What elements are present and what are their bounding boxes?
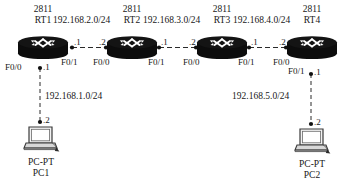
ip-label-rt4-f00: .2 (279, 38, 286, 47)
router-rt4[interactable] (286, 35, 338, 60)
ip-label-rt1-f00: .1 (43, 63, 50, 72)
iface-dot-rt1-f00 (38, 66, 42, 70)
host-pc1[interactable] (23, 125, 57, 155)
ip-label-rt2-f01: .1 (161, 38, 168, 47)
iface-label-rt4-f01: F0/1 (288, 67, 305, 76)
ip-label-rt4-f01: .1 (314, 68, 321, 77)
ip-label-rt1-f01: .1 (74, 38, 81, 47)
network-diagram-canvas: 2811 RT1 2811 RT2 2811 RT3 2811 RT4 192.… (0, 0, 353, 185)
iface-label-rt2-f00: F0/0 (93, 58, 110, 67)
laptop-icon (294, 127, 330, 159)
router-rt4-model: 2811 (296, 5, 328, 15)
iface-label-rt3-f00: F0/0 (183, 58, 200, 67)
host-pc1-name: PC1 (18, 169, 64, 179)
router-rt4-name: RT4 (296, 16, 328, 26)
iface-dot-pc2 (309, 122, 313, 126)
iface-label-rt3-f01: F0/1 (238, 58, 255, 67)
network-label-192-168-3-0: 192.168.3.0/24 (143, 16, 200, 26)
iface-label-rt1-f01: F0/1 (61, 58, 78, 67)
iface-label-rt2-f01: F0/1 (148, 58, 165, 67)
ip-label-pc1: .2 (43, 116, 50, 125)
ip-label-rt3-f00: .2 (189, 38, 196, 47)
iface-label-rt1-f00: F0/0 (5, 63, 22, 72)
host-pc2-name: PC2 (289, 171, 335, 181)
network-label-192-168-1-0: 192.168.1.0/24 (45, 92, 102, 102)
network-label-192-168-2-0: 192.168.2.0/24 (53, 16, 110, 26)
laptop-icon (23, 125, 59, 157)
router-rt2-model: 2811 (116, 5, 148, 15)
network-label-192-168-5-0: 192.168.5.0/24 (232, 92, 289, 102)
router-rt3-model: 2811 (206, 5, 238, 15)
ip-label-pc2: .2 (314, 118, 321, 127)
host-pc1-model: PC-PT (18, 158, 64, 168)
router-rt1-model: 2811 (27, 5, 59, 15)
network-label-192-168-4-0: 192.168.4.0/24 (233, 16, 290, 26)
ip-label-rt2-f00: .2 (99, 38, 106, 47)
host-pc2-model: PC-PT (289, 160, 335, 170)
ip-label-rt3-f01: .1 (251, 38, 258, 47)
host-pc2[interactable] (294, 127, 328, 157)
iface-dot-pc1 (38, 120, 42, 124)
router-icon (286, 35, 338, 60)
iface-dot-rt4-f01 (309, 72, 313, 76)
